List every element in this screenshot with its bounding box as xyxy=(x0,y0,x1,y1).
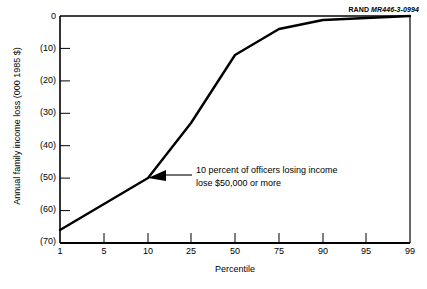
plot-canvas xyxy=(0,0,427,289)
chart-figure: RAND MR446-3-0994 Annual family income l… xyxy=(0,0,427,289)
plot-frame xyxy=(60,16,410,243)
y-axis-ticks xyxy=(60,48,70,210)
x-axis-ticks xyxy=(104,233,366,243)
annotation-arrow xyxy=(148,170,192,181)
data-series-line xyxy=(60,16,410,230)
